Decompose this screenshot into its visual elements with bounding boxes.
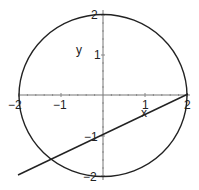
tick-y-neg2: −2 [83, 171, 97, 183]
tick-y-neg1: −1 [84, 131, 98, 143]
tick-y-2: 2 [91, 9, 98, 21]
tick-x-2: 2 [184, 99, 191, 111]
tick-y-1: 1 [94, 49, 101, 61]
y-axis-label: y [76, 44, 82, 56]
x-axis-label: x [141, 107, 147, 119]
tick-x-neg2: −2 [8, 99, 22, 111]
tick-x-neg1: −1 [53, 99, 67, 111]
plot-area [0, 0, 199, 190]
